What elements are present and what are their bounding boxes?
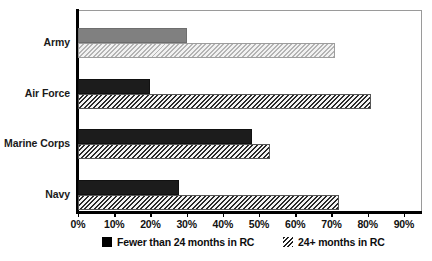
x-tick-label-4: 40% — [213, 218, 233, 230]
x-tick-mark-6 — [295, 212, 296, 217]
x-tick-mark-7 — [331, 212, 332, 217]
bar-navy-series-1 — [78, 195, 339, 210]
y-axis-label-air-force: Air Force — [0, 87, 70, 99]
x-tick-mark-5 — [259, 212, 260, 217]
chart-legend: Fewer than 24 months in RC 24+ months in… — [0, 236, 432, 256]
legend-item-fewer-than-24-months: Fewer than 24 months in RC — [102, 236, 254, 248]
legend-label-fewer-than-24-months: Fewer than 24 months in RC — [117, 236, 254, 248]
bar-army-series-1 — [78, 43, 335, 58]
x-tick-mark-3 — [187, 212, 188, 217]
x-tick-label-5: 50% — [249, 218, 269, 230]
bar-marine-corps-series-0 — [78, 129, 252, 144]
y-axis-label-army: Army — [0, 36, 70, 48]
x-tick-mark-1 — [114, 212, 115, 217]
legend-swatch-solid-icon — [102, 237, 112, 247]
x-tick-mark-9 — [404, 212, 405, 217]
x-tick-mark-4 — [223, 212, 224, 217]
x-tick-mark-2 — [150, 212, 151, 217]
x-tick-mark-0 — [78, 212, 79, 217]
x-tick-label-8: 80% — [357, 218, 377, 230]
x-tick-label-3: 30% — [176, 218, 196, 230]
legend-label-24-plus-months: 24+ months in RC — [298, 236, 385, 248]
bar-air-force-series-0 — [78, 79, 150, 94]
x-tick-label-6: 60% — [285, 218, 305, 230]
x-tick-mark-8 — [368, 212, 369, 217]
y-axis-label-marine-corps: Marine Corps — [0, 137, 70, 149]
x-tick-label-7: 70% — [321, 218, 341, 230]
legend-swatch-hatched-icon — [283, 237, 293, 247]
x-tick-label-1: 10% — [104, 218, 124, 230]
bar-chart: Army Air Force Marine Corps Navy 0%10%20… — [0, 0, 432, 261]
bar-army-series-0 — [78, 28, 187, 43]
bars-layer — [78, 10, 422, 212]
x-tick-label-9: 90% — [394, 218, 414, 230]
y-axis-label-navy: Navy — [0, 188, 70, 200]
legend-item-24-plus-months: 24+ months in RC — [283, 236, 385, 248]
bar-navy-series-0 — [78, 180, 179, 195]
x-tick-label-2: 20% — [140, 218, 160, 230]
x-tick-label-0: 0% — [71, 218, 86, 230]
bar-air-force-series-1 — [78, 94, 371, 109]
bar-marine-corps-series-1 — [78, 144, 270, 159]
y-axis-category-labels: Army Air Force Marine Corps Navy — [0, 10, 74, 212]
